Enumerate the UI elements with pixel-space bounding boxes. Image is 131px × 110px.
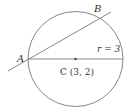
label-point-a: A bbox=[16, 53, 24, 64]
label-center: C (3, 2) bbox=[60, 67, 94, 77]
label-radius: r = 3 bbox=[97, 44, 121, 54]
circle-diagram: A B C (3, 2) r = 3 bbox=[0, 0, 131, 110]
center-point bbox=[74, 58, 77, 61]
label-point-b: B bbox=[93, 3, 101, 14]
